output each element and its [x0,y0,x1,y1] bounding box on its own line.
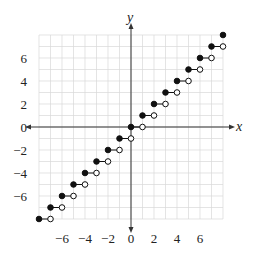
y-axis-label: y [125,10,134,25]
open-dot [163,101,169,107]
x-tick-label: −2 [101,231,115,246]
x-tick-label: 0 [128,231,135,246]
open-dot [71,193,77,199]
x-axis-label: x [235,119,243,134]
x-tick-label: 4 [174,231,181,246]
y-tick-label: 4 [21,74,28,89]
open-dot [140,124,146,130]
closed-dot [140,113,146,119]
y-tick-label: 0 [21,120,28,135]
open-dot [82,182,88,188]
open-dot [174,90,180,96]
x-tick-label: 6 [197,231,204,246]
closed-dot [163,90,169,96]
closed-dot [48,205,54,211]
step-function-chart: −6−4−20246−6−4−20246 x y [0,0,254,254]
open-dot [59,205,65,211]
closed-dot [186,67,192,73]
open-dot [48,216,54,222]
closed-dot [209,44,215,50]
x-arrow-right-icon [229,125,235,130]
closed-dot [94,159,100,165]
closed-dot [105,147,111,153]
open-dot [105,159,111,165]
open-dot [220,44,226,50]
open-dot [186,78,192,84]
open-dot [128,136,134,142]
closed-dot [36,216,42,222]
open-dot [151,113,157,119]
y-tick-label: 6 [21,51,28,66]
closed-dot [82,170,88,176]
x-tick-label: 2 [151,231,158,246]
x-tick-label: −4 [78,231,92,246]
closed-dot [174,78,180,84]
closed-dot [71,182,77,188]
closed-dot [151,101,157,107]
x-tick-label: −6 [55,231,69,246]
y-tick-label: −4 [13,166,27,181]
open-dot [117,147,123,153]
open-dot [209,55,215,61]
closed-dot [197,55,203,61]
open-dot [197,67,203,73]
y-tick-label: 2 [21,97,28,112]
closed-dot [128,124,134,130]
y-tick-label: −2 [13,143,27,158]
closed-dot [117,136,123,142]
open-dot [94,170,100,176]
closed-dot [220,32,226,38]
closed-dot [59,193,65,199]
y-tick-label: −6 [13,189,27,204]
